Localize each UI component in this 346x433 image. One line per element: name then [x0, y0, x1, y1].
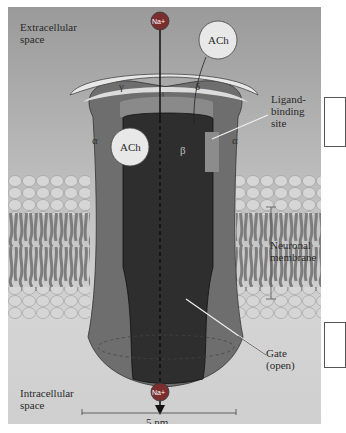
subunit-delta: δ	[195, 80, 200, 92]
scale-label: 5 nm	[146, 416, 168, 424]
subunit-gamma: γ	[119, 80, 124, 92]
ion-bottom-label: Na+	[152, 387, 165, 399]
ligand-line1: Ligand-	[271, 93, 306, 105]
intracellular-line1: Intracellular	[20, 387, 74, 399]
subunit-alpha-left: α	[92, 134, 98, 146]
side-box-lower	[324, 322, 346, 368]
extracellular-line1: Extracellular	[20, 21, 77, 33]
membrane-line2: membrane	[270, 251, 316, 263]
subunit-beta: β	[180, 144, 186, 156]
side-box-upper	[324, 97, 346, 147]
ion-top-label: Na+	[152, 16, 165, 28]
membrane-left	[8, 175, 90, 319]
ligand-binding-site-label: Ligand- binding site	[271, 93, 306, 129]
extracellular-line2: space	[20, 33, 77, 45]
gate-line2: (open)	[266, 359, 295, 371]
ach-free-label: ACh	[208, 34, 229, 46]
neuronal-membrane-label: Neuronal membrane	[270, 239, 316, 263]
ach-receptor-figure: Extracellular space Intracellular space …	[8, 7, 321, 424]
intracellular-label: Intracellular space	[20, 387, 74, 411]
ligand-line2: binding	[271, 105, 306, 117]
gate-line1: Gate	[266, 347, 295, 359]
ach-bound-label: ACh	[120, 141, 141, 153]
membrane-line1: Neuronal	[270, 239, 316, 251]
ion-flow-arrow-icon	[155, 405, 165, 415]
intracellular-line2: space	[20, 399, 74, 411]
extracellular-label: Extracellular space	[20, 21, 77, 45]
subunit-alpha-right: α	[232, 134, 238, 146]
gate-label: Gate (open)	[266, 347, 295, 371]
ligand-line3: site	[271, 117, 306, 129]
